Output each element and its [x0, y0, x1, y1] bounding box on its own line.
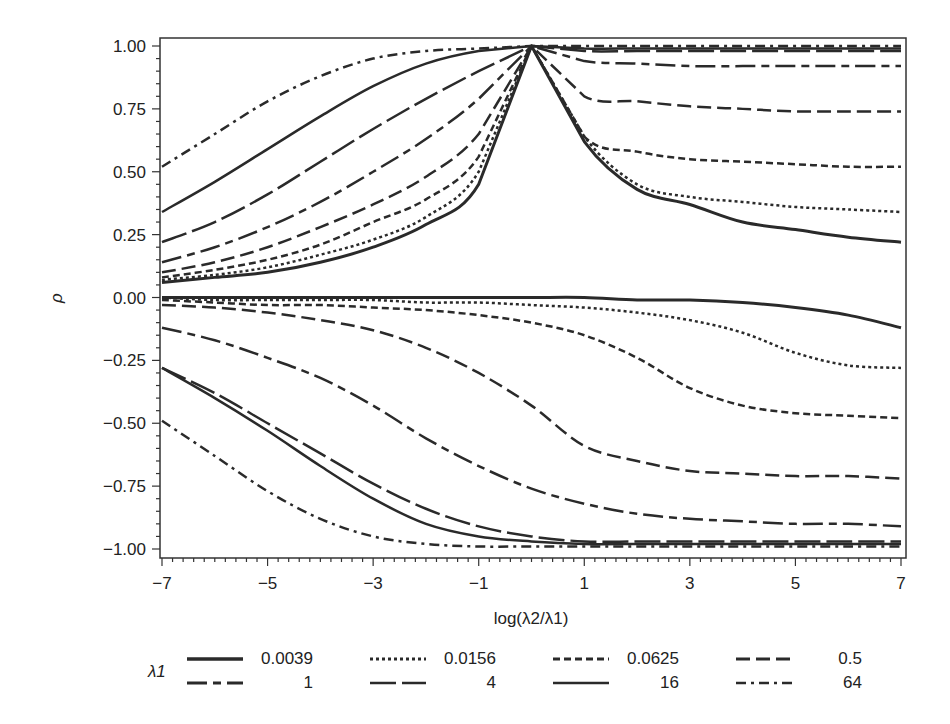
series-line-64-lower	[162, 421, 901, 547]
series-line-64-upper	[162, 46, 901, 167]
legend-line-swatch	[551, 678, 611, 688]
y-tick-label: 0.00	[113, 289, 146, 308]
legend-title: λ1	[148, 662, 166, 682]
legend-label: 0.0156	[434, 649, 496, 669]
x-tick-label: −3	[363, 574, 382, 593]
legend-label: 4	[434, 673, 496, 693]
legend-line-swatch	[368, 678, 428, 688]
x-tick-label: 5	[791, 574, 800, 593]
legend-label: 64	[800, 673, 862, 693]
y-tick-label: −0.25	[103, 351, 146, 370]
x-tick-label: 3	[685, 574, 694, 593]
line-chart: 1.000.750.500.250.00−0.25−0.50−0.75−1.00…	[0, 0, 950, 640]
y-tick-label: −0.50	[103, 414, 146, 433]
y-tick-label: 1.00	[113, 37, 146, 56]
series-line-4-lower	[162, 368, 901, 542]
y-tick-label: 0.75	[113, 100, 146, 119]
legend-item: 16	[551, 672, 734, 694]
series-line-0.5-lower	[162, 305, 901, 479]
legend-line-swatch	[185, 654, 245, 664]
legend-line-swatch	[734, 654, 794, 664]
legend-label: 0.5	[800, 649, 862, 669]
legend-item: 0.0625	[551, 648, 734, 670]
series-line-16-lower	[162, 368, 901, 544]
legend-line-swatch	[368, 654, 428, 664]
y-tick-label: 0.25	[113, 226, 146, 245]
x-tick-label: 7	[896, 574, 905, 593]
x-axis: −7−5−3−11357	[152, 558, 905, 593]
legend-label: 0.0625	[617, 649, 679, 669]
x-tick-label: −5	[258, 574, 277, 593]
series-line-0.0625-upper	[162, 46, 901, 277]
y-axis: 1.000.750.500.250.00−0.25−0.50−0.75−1.00	[103, 37, 160, 559]
legend-items: 0.00390.01560.06250.5141664	[185, 648, 917, 694]
y-axis-title: ρ	[47, 293, 66, 304]
y-tick-label: 0.50	[113, 163, 146, 182]
y-tick-label: −1.00	[103, 540, 146, 559]
series-line-0.5-upper	[162, 46, 901, 272]
y-tick-label: −0.75	[103, 477, 146, 496]
x-tick-label: −1	[469, 574, 488, 593]
legend-item: 0.0156	[368, 648, 551, 670]
legend-line-swatch	[185, 678, 245, 688]
legend-label: 0.0039	[251, 649, 313, 669]
legend-line-swatch	[551, 654, 611, 664]
series-line-16-upper	[162, 46, 901, 212]
x-axis-title: log(λ2/λ1)	[494, 609, 569, 628]
x-tick-label: −7	[152, 574, 171, 593]
series-line-4-upper	[162, 46, 901, 242]
legend-label: 16	[617, 673, 679, 693]
series-line-1-lower	[162, 328, 901, 527]
legend-item: 64	[734, 672, 917, 694]
legend-label: 1	[251, 673, 313, 693]
legend-item: 0.5	[734, 648, 917, 670]
x-tick-label: 1	[580, 574, 589, 593]
legend-item: 4	[368, 672, 551, 694]
series-line-0.0625-lower	[162, 300, 901, 418]
series-lines	[162, 46, 901, 547]
legend-line-swatch	[734, 678, 794, 688]
legend-item: 1	[185, 672, 368, 694]
legend-item: 0.0039	[185, 648, 368, 670]
